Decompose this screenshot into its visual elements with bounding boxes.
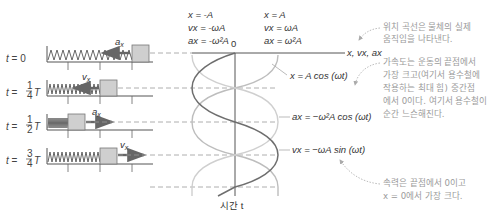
svg-text:작용하는 최대 힘) 중간점: 작용하는 최대 힘) 중간점 xyxy=(383,82,475,93)
top-right-values: x = A vx = ωA ax = ω²A xyxy=(263,9,302,46)
spring-icon xyxy=(48,50,132,60)
svg-text:x = -A: x = -A xyxy=(187,9,213,20)
note-position: 위치 곡선은 물체의 실제 움직임을 나타낸다. xyxy=(383,22,471,44)
arrow-label-t0: ax xyxy=(115,36,124,48)
spring-row-t-three-quarter: t = 3 4 T vx xyxy=(6,139,153,172)
velocity-equation: vx = −ωA sin (ωt) xyxy=(292,144,365,155)
arrow-label-t-quarter: vx xyxy=(82,71,91,83)
top-left-values: x = -A vx = -ωA ax = -ω²A xyxy=(187,9,229,46)
shm-diagram: t = 0 ax t = 1 4 T vx t = 1 2 T xyxy=(0,0,503,217)
block xyxy=(100,80,117,96)
time-label-t-three-quarter: t = xyxy=(6,155,18,166)
svg-text:vx = ωA: vx = ωA xyxy=(264,22,298,33)
svg-text:에서 0이다. 여기서 용수철이: 에서 0이다. 여기서 용수철이 xyxy=(383,95,487,106)
time-label-t-half: t = xyxy=(6,121,18,132)
time-label-t-quarter: t = xyxy=(6,87,18,98)
svg-text:가장 크고(여기서 용수철에: 가장 크고(여기서 용수철에 xyxy=(383,69,480,80)
block xyxy=(68,114,85,130)
horizontal-axis-label: x, vx, ax xyxy=(346,47,383,58)
arrow-label-t-three-quarter: vx xyxy=(120,139,129,151)
svg-text:vx = -ωA: vx = -ωA xyxy=(188,22,225,33)
svg-text:ax = ω²A: ax = ω²A xyxy=(264,35,302,46)
frac-den: 4 xyxy=(27,158,33,169)
svg-text:x = 0에서 가장 크다.: x = 0에서 가장 크다. xyxy=(383,191,462,201)
svg-text:x = A: x = A xyxy=(263,9,286,20)
spring-row-t0: t = 0 ax xyxy=(6,36,153,70)
block xyxy=(100,148,117,164)
origin-label: 0 xyxy=(231,38,236,49)
svg-text:순간 느슨해진다.: 순간 느슨해진다. xyxy=(383,109,444,119)
period-T: T xyxy=(34,121,41,132)
svg-text:움직임을 나타낸다.: 움직임을 나타낸다. xyxy=(383,33,452,44)
svg-text:위치 곡선은 물체의 실제: 위치 곡선은 물체의 실제 xyxy=(383,22,471,32)
spring-icon xyxy=(48,152,100,162)
acceleration-equation: ax = −ω²A cos (ωt) xyxy=(292,111,371,122)
svg-text:속력은 끝점에서 0이고: 속력은 끝점에서 0이고 xyxy=(383,177,466,188)
arrow-label-t-half: ax xyxy=(92,106,101,118)
period-T: T xyxy=(34,87,41,98)
time-gridlines xyxy=(86,53,278,187)
spring-row-t-quarter: t = 1 4 T vx xyxy=(6,71,153,104)
frac-den: 4 xyxy=(27,90,33,101)
svg-text:가속도는 운동의 끝점에서: 가속도는 운동의 끝점에서 xyxy=(383,56,476,67)
position-equation: x = A cos (ωt) xyxy=(289,70,348,81)
time-label-t0: t = 0 xyxy=(6,53,26,64)
note-velocity: 속력은 끝점에서 0이고 x = 0에서 가장 크다. xyxy=(383,177,466,201)
time-axis-label: 시간 t xyxy=(220,200,244,211)
period-T: T xyxy=(34,155,41,166)
svg-text:ax = -ω²A: ax = -ω²A xyxy=(188,35,229,46)
block xyxy=(132,45,149,62)
spring-icon xyxy=(48,118,68,128)
note-acceleration: 가속도는 운동의 끝점에서 가장 크고(여기서 용수철에 작용하는 최대 힘) … xyxy=(383,56,487,119)
frac-den: 2 xyxy=(27,124,33,135)
